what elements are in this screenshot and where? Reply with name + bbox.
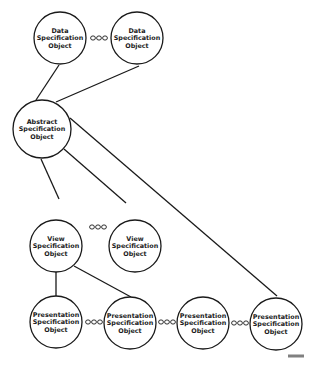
node-label-line: Object bbox=[118, 327, 141, 335]
node-label-line: Object bbox=[123, 250, 146, 258]
node-label-line: Object bbox=[48, 42, 71, 50]
edge-abstract-to-view1 bbox=[41, 159, 59, 199]
node-label-line: Object bbox=[44, 250, 67, 258]
ellipsis-dot-icon bbox=[90, 225, 95, 229]
node-data1: DataSpecificationObject bbox=[34, 12, 86, 64]
ellipsis-dot-icon bbox=[97, 36, 102, 40]
ellipsis-dot-icon bbox=[159, 320, 164, 324]
ellipsis-dot-icon bbox=[96, 225, 101, 229]
node-label-line: Object bbox=[191, 327, 214, 335]
figure-id bbox=[288, 355, 304, 358]
node-view2: ViewSpecificationObject bbox=[109, 220, 161, 272]
figure-id-mark bbox=[288, 355, 304, 358]
edge-view1-to-pres2 bbox=[74, 266, 131, 297]
ellipsis-dot-icon bbox=[91, 36, 96, 40]
ellipsis-dot-icon bbox=[238, 321, 243, 325]
edge-data1-to-abstract bbox=[36, 65, 59, 100]
node-pres3: PresentationSpecificationObject bbox=[177, 297, 229, 349]
ellipsis-dot-icon bbox=[232, 321, 237, 325]
node-view1: ViewSpecificationObject bbox=[30, 220, 82, 272]
ellipsis-ooo bbox=[86, 320, 103, 324]
node-data2: DataSpecificationObject bbox=[111, 12, 163, 64]
ellipsis-dot-icon bbox=[103, 36, 108, 40]
ellipses bbox=[86, 36, 249, 325]
ellipsis-dot-icon bbox=[102, 225, 107, 229]
ellipsis-dot-icon bbox=[86, 320, 91, 324]
node-label-line: Object bbox=[125, 42, 148, 50]
node-abstract: AbstractSpecificationObject bbox=[13, 100, 71, 158]
edge-data2-to-abstract bbox=[56, 66, 139, 102]
node-label-line: Object bbox=[264, 328, 287, 336]
edge-abstract-to-pres4 bbox=[70, 118, 277, 296]
edge-abstract-to-view2 bbox=[64, 149, 126, 203]
node-pres4: PresentationSpecificationObject bbox=[250, 298, 302, 350]
node-pres1: PresentationSpecificationObject bbox=[30, 296, 82, 348]
node-pres2: PresentationSpecificationObject bbox=[104, 297, 156, 349]
ellipsis-dot-icon bbox=[98, 320, 103, 324]
ellipsis-dot-icon bbox=[244, 321, 249, 325]
node-label-line: Object bbox=[30, 133, 53, 141]
ellipsis-ooo bbox=[232, 321, 249, 325]
ellipsis-dot-icon bbox=[92, 320, 97, 324]
node-label-line: Object bbox=[44, 326, 67, 334]
ellipsis-ooo bbox=[90, 225, 107, 229]
ellipsis-dot-icon bbox=[165, 320, 170, 324]
ellipsis-ooo bbox=[159, 320, 176, 324]
specification-object-hierarchy-diagram: DataSpecificationObjectDataSpecification… bbox=[0, 0, 317, 371]
ellipsis-dot-icon bbox=[171, 320, 176, 324]
ellipsis-ooo bbox=[91, 36, 108, 40]
nodes: DataSpecificationObjectDataSpecification… bbox=[13, 12, 302, 350]
